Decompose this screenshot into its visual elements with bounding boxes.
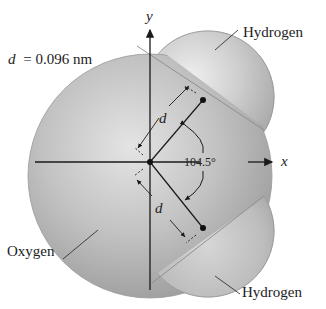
- distance-annotation: d = 0.096 nm: [8, 51, 92, 67]
- dimension-label-d-upper: d: [159, 110, 167, 126]
- water-molecule-diagram: y x d d 104.5° d = 0.0: [0, 0, 326, 309]
- svg-text:d = 0.096 nm: d = 0.096 nm: [8, 51, 92, 67]
- dimension-label-d-lower: d: [155, 200, 163, 216]
- distance-value: = 0.096 nm: [23, 51, 92, 67]
- angle-label: 104.5°: [184, 155, 216, 169]
- hydrogen-lower-label: Hydrogen: [242, 284, 302, 300]
- y-axis-label: y: [144, 8, 153, 24]
- hydrogen-upper-label: Hydrogen: [243, 24, 303, 40]
- distance-symbol: d: [8, 51, 16, 67]
- origin-point: [147, 159, 153, 165]
- oxygen-label: Oxygen: [7, 243, 55, 259]
- x-axis-label: x: [280, 153, 288, 169]
